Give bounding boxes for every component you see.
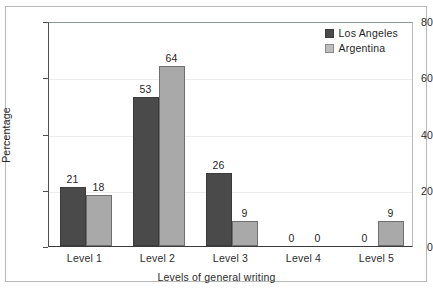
x-axis-tick-label: Level 1	[67, 252, 102, 264]
legend: Los Angeles Argentina	[325, 27, 398, 54]
legend-swatch-icon-los-angeles	[325, 29, 334, 38]
bar-chart-figure: Percentage 020406080 211853642690009 Los…	[0, 0, 433, 294]
bar-argentina-level-1[interactable]	[86, 195, 112, 246]
bar-los-angeles-level-2[interactable]	[133, 97, 159, 246]
bar-argentina-level-2[interactable]	[159, 66, 185, 246]
y-axis-title: Percentage	[0, 107, 12, 163]
x-axis-tick-label: Level 2	[140, 252, 175, 264]
legend-swatch-icon-argentina	[325, 44, 334, 53]
bar-value-label: 64	[165, 52, 177, 64]
bar-value-label: 9	[241, 207, 247, 219]
bar-los-angeles-level-1[interactable]	[60, 187, 86, 246]
x-axis-tick-label: Level 4	[286, 252, 321, 264]
bar-value-label: 9	[387, 207, 393, 219]
y-axis-tick-mark	[43, 247, 48, 248]
plot-area: 211853642690009 Los Angeles Argentina	[48, 22, 413, 247]
gridline	[49, 79, 412, 80]
bar-value-label: 0	[361, 232, 367, 244]
legend-label-los-angeles: Los Angeles	[339, 27, 398, 39]
bar-value-label: 21	[66, 173, 78, 185]
bar-value-label: 18	[92, 181, 104, 193]
x-axis-tick-label: Level 5	[359, 252, 394, 264]
bar-value-label: 0	[314, 232, 320, 244]
legend-item-los-angeles[interactable]: Los Angeles	[325, 27, 398, 39]
bar-value-label: 0	[288, 232, 294, 244]
bar-los-angeles-level-3[interactable]	[206, 173, 232, 246]
bar-value-label: 26	[212, 159, 224, 171]
bar-value-label: 53	[139, 83, 151, 95]
legend-item-argentina[interactable]: Argentina	[325, 42, 398, 54]
bar-argentina-level-3[interactable]	[232, 221, 258, 246]
bar-argentina-level-5[interactable]	[378, 221, 404, 246]
legend-label-argentina: Argentina	[339, 42, 386, 54]
gridline	[49, 136, 412, 137]
x-axis-title: Levels of general writing	[0, 271, 433, 283]
x-axis-tick-label: Level 3	[213, 252, 248, 264]
